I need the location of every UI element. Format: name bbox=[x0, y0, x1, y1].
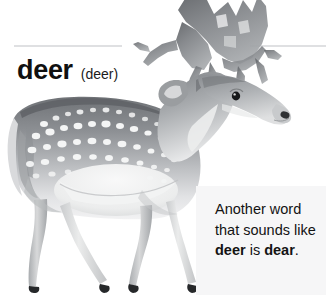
headword: deer bbox=[17, 57, 73, 84]
note-text: Another word that sounds like deer is de… bbox=[215, 199, 319, 261]
note-line-4-suffix: . bbox=[295, 242, 299, 258]
note-line-1: Another word bbox=[215, 201, 301, 217]
note-word-dear: dear bbox=[264, 242, 295, 258]
note-line-3-prefix: like bbox=[294, 222, 316, 238]
note-word-deer: deer bbox=[215, 242, 246, 258]
headword-row: deer (deer) bbox=[17, 57, 118, 84]
note-line-3-suffix: is bbox=[246, 242, 261, 258]
note-box: Another word that sounds like deer is de… bbox=[196, 186, 326, 295]
note-line-2: that sounds bbox=[215, 222, 290, 238]
dictionary-entry-card: deer (deer) bbox=[0, 0, 326, 295]
pronunciation: (deer) bbox=[81, 67, 118, 81]
